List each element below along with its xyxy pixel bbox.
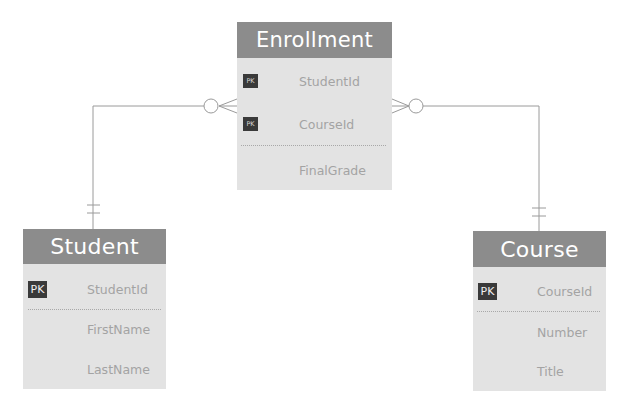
crows-foot-bottom (219, 106, 237, 113)
field-name: FirstName (87, 322, 150, 337)
field-name: FinalGrade (299, 163, 366, 178)
primary-key-badge: PK (28, 281, 47, 298)
field-studentid[interactable]: PK StudentId (23, 279, 166, 299)
entity-title: Student (23, 229, 166, 264)
crows-foot-top (392, 99, 409, 106)
field-studentid[interactable]: PK StudentId (237, 71, 392, 91)
field-lastname[interactable]: LastName (23, 359, 166, 379)
er-diagram-canvas: Enrollment PK StudentId PK CourseId Fina… (0, 0, 628, 411)
field-name: LastName (87, 362, 150, 377)
zero-optional-circle (204, 99, 218, 113)
field-firstname[interactable]: FirstName (23, 319, 166, 339)
entity-title: Course (473, 231, 606, 267)
crows-foot-bottom (392, 106, 409, 113)
field-name: Number (537, 325, 587, 340)
relationship-student-enrollment[interactable] (87, 99, 237, 229)
entity-course[interactable]: Course PK CourseId Number Title (473, 231, 606, 391)
field-name: StudentId (87, 282, 148, 297)
primary-key-badge: PK (478, 283, 497, 300)
field-name: CourseId (299, 117, 354, 132)
key-separator (241, 145, 386, 146)
entity-enrollment[interactable]: Enrollment PK StudentId PK CourseId Fina… (237, 22, 392, 190)
field-courseid[interactable]: PK CourseId (473, 281, 606, 301)
field-finalgrade[interactable]: FinalGrade (237, 160, 392, 180)
relationship-course-enrollment[interactable] (392, 99, 546, 231)
entity-title: Enrollment (237, 22, 392, 58)
field-number[interactable]: Number (473, 322, 606, 342)
crows-foot-top (219, 99, 237, 106)
field-title[interactable]: Title (473, 361, 606, 381)
primary-key-badge: PK (243, 117, 258, 131)
field-name: Title (537, 364, 564, 379)
field-name: StudentId (299, 74, 360, 89)
primary-key-badge: PK (243, 74, 258, 88)
entity-student[interactable]: Student PK StudentId FirstName LastName (23, 229, 166, 389)
key-separator (477, 311, 600, 312)
field-name: CourseId (537, 284, 592, 299)
field-courseid[interactable]: PK CourseId (237, 114, 392, 134)
key-separator (28, 309, 161, 310)
zero-optional-circle (409, 99, 423, 113)
